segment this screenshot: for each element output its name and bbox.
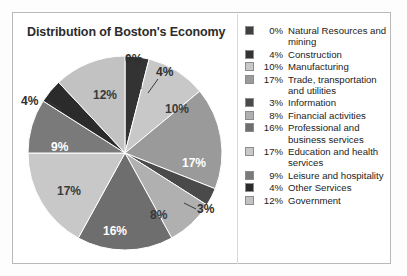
legend-item[interactable]: 17%Trade, transportation and utilities: [245, 74, 387, 97]
legend-swatch: [245, 171, 254, 180]
legend-label: Construction: [288, 49, 342, 60]
legend-item[interactable]: 4%Other Services: [245, 182, 387, 193]
legend-label: Trade, transportation and utilities: [288, 74, 387, 97]
legend-label: Other Services: [288, 182, 351, 193]
legend-swatch: [245, 26, 254, 35]
legend-percent: 4%: [258, 49, 283, 60]
legend-item[interactable]: 16%Professional and business services: [245, 122, 387, 145]
slice-value-label: 17%: [182, 156, 206, 170]
chart-title: Distribution of Boston's Economy: [27, 25, 227, 39]
legend-label: Financial activities: [288, 110, 366, 121]
panel-divider: [237, 14, 238, 264]
chart-legend: 0%Natural Resources and mining4%Construc…: [245, 25, 387, 207]
legend-percent: 9%: [258, 170, 283, 181]
slice-value-label: 12%: [93, 88, 117, 102]
legend-swatch: [245, 123, 254, 132]
slice-value-label: 17%: [57, 184, 81, 198]
pie-chart: 0%4%10%17%3%8%16%17%9%4%12%: [17, 43, 233, 259]
legend-label: Education and health services: [288, 146, 387, 169]
legend-swatch: [245, 75, 254, 84]
slice-value-label: 10%: [165, 102, 189, 116]
slice-value-label: 9%: [51, 140, 69, 154]
legend-swatch: [245, 62, 254, 71]
legend-label: Information: [288, 97, 336, 108]
legend-label: Manufacturing: [288, 61, 349, 72]
legend-item[interactable]: 9%Leisure and hospitality: [245, 170, 387, 181]
chart-figure: Distribution of Boston's Economy 0%4%10%…: [0, 0, 407, 276]
legend-item[interactable]: 3%Information: [245, 97, 387, 108]
legend-item[interactable]: 4%Construction: [245, 49, 387, 60]
legend-percent: 8%: [258, 110, 283, 121]
legend-item[interactable]: 8%Financial activities: [245, 110, 387, 121]
legend-swatch: [245, 183, 254, 192]
legend-percent: 16%: [258, 122, 283, 133]
legend-label: Government: [288, 195, 341, 206]
legend-percent: 3%: [258, 97, 283, 108]
legend-percent: 12%: [258, 195, 283, 206]
legend-percent: 17%: [258, 74, 283, 85]
legend-item[interactable]: 12%Government: [245, 195, 387, 206]
legend-percent: 10%: [258, 61, 283, 72]
legend-item[interactable]: 10%Manufacturing: [245, 61, 387, 72]
legend-swatch: [245, 111, 254, 120]
legend-swatch: [245, 50, 254, 59]
legend-swatch: [245, 196, 254, 205]
legend-percent: 0%: [258, 25, 283, 36]
legend-label: Natural Resources and mining: [288, 25, 387, 48]
slice-value-label: 3%: [197, 202, 215, 216]
legend-item[interactable]: 0%Natural Resources and mining: [245, 25, 387, 48]
legend-swatch: [245, 147, 254, 156]
legend-item[interactable]: 17%Education and health services: [245, 146, 387, 169]
slice-value-label: 8%: [150, 208, 168, 222]
slice-value-label: 4%: [21, 94, 39, 108]
slice-value-label: 0%: [125, 52, 143, 66]
slice-value-label: 16%: [103, 224, 127, 238]
legend-percent: 17%: [258, 146, 283, 157]
legend-percent: 4%: [258, 182, 283, 193]
legend-label: Leisure and hospitality: [288, 170, 383, 181]
chart-panel: Distribution of Boston's Economy 0%4%10%…: [12, 12, 391, 264]
legend-swatch: [245, 98, 254, 107]
legend-label: Professional and business services: [288, 122, 387, 145]
slice-value-label: 4%: [156, 65, 174, 79]
pie-svg: 0%4%10%17%3%8%16%17%9%4%12%: [17, 43, 233, 259]
